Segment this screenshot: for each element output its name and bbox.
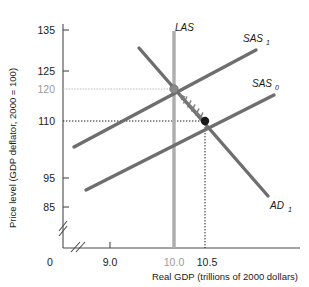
- aggregate-supply-demand-chart: 135 125 120 110 95 85 0 9.0 10.0 10.5 Pr…: [0, 0, 309, 287]
- curve-label-sas0: SAS: [252, 78, 272, 89]
- curve-label-las: LAS: [175, 22, 194, 33]
- y-tick-label-120: 120: [37, 83, 55, 95]
- curve-label-ad1: AD: [269, 200, 284, 211]
- point-initial-equilibrium: [201, 117, 209, 125]
- curve-label-sas0-subscript: 0: [275, 84, 279, 91]
- x-tick-label-10point0: 10.0: [164, 256, 185, 268]
- y-tick-label-85: 85: [43, 201, 55, 213]
- y-tick-label-125: 125: [37, 65, 55, 77]
- chart-figure: 135 125 120 110 95 85 0 9.0 10.0 10.5 Pr…: [0, 0, 309, 287]
- curve-label-ad1-subscript: 1: [288, 206, 292, 213]
- y-axis-title: Price level (GDP deflator, 2000 = 100): [7, 68, 18, 228]
- curve-label-sas1-subscript: 1: [266, 39, 270, 46]
- point-new-equilibrium: [170, 85, 178, 93]
- x-origin-label: 0: [47, 256, 53, 268]
- x-tick-label-10point5: 10.5: [197, 256, 218, 268]
- x-tick-label-9point0: 9.0: [103, 256, 118, 268]
- y-tick-label-110: 110: [38, 115, 55, 127]
- x-axis-title: Real GDP (trillions of 2000 dollars): [152, 271, 298, 282]
- curve-label-sas1: SAS: [243, 33, 263, 44]
- y-tick-label-95: 95: [43, 172, 55, 184]
- y-tick-label-135: 135: [37, 24, 55, 36]
